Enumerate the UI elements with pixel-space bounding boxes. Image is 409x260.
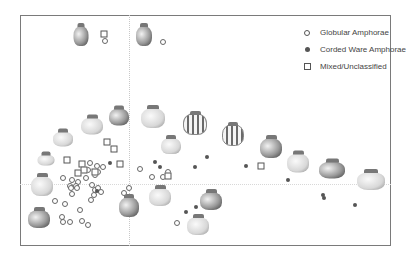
vessel-illustration (53, 132, 73, 147)
data-point-open-circle (100, 164, 106, 170)
data-point-open-circle (77, 207, 83, 213)
data-point-filled-circle (194, 205, 198, 209)
vessel-illustration (74, 26, 89, 46)
data-point-open-circle (121, 190, 127, 196)
vessel-illustration (28, 210, 50, 228)
data-point-open-square (101, 31, 108, 38)
vessel-neck (190, 111, 201, 115)
data-point-filled-circle (244, 164, 248, 168)
data-point-open-square (117, 161, 124, 168)
data-point-open-square (258, 163, 265, 170)
vessel-neck (140, 23, 148, 27)
vessel-neck (228, 122, 238, 126)
data-point-open-circle (52, 198, 58, 204)
data-point-filled-circle (205, 155, 209, 159)
data-point-open-square (64, 157, 71, 164)
vessel-neck (114, 106, 124, 110)
data-point-open-circle (62, 201, 68, 207)
vessel-illustration (31, 176, 53, 196)
vessel-neck (293, 151, 304, 155)
data-point-open-circle (137, 166, 143, 172)
vessel-neck (42, 152, 51, 156)
open-circle-icon (300, 30, 314, 36)
legend-label: Globular Amphorae (320, 28, 389, 37)
data-point-filled-circle (286, 178, 290, 182)
data-point-open-circle (102, 38, 108, 44)
vessel-illustration (187, 217, 209, 235)
data-point-filled-circle (322, 196, 326, 200)
data-point-open-circle (69, 191, 75, 197)
vessel-illustration (319, 162, 345, 179)
vessel-neck (77, 23, 85, 27)
data-point-open-circle (60, 175, 66, 181)
vessel-illustration (109, 109, 129, 126)
vessel-illustration (161, 138, 181, 154)
data-point-open-square (75, 170, 82, 177)
data-point-filled-circle (158, 165, 162, 169)
data-point-open-circle (174, 220, 180, 226)
data-point-open-circle (85, 222, 91, 228)
data-point-open-square (81, 167, 88, 174)
data-point-open-circle (83, 175, 89, 181)
legend-label: Mixed/Unclassified (320, 62, 387, 71)
data-point-open-circle (126, 185, 132, 191)
data-point-open-circle (88, 197, 94, 203)
data-point-filled-circle (353, 203, 357, 207)
data-point-filled-circle (193, 165, 197, 169)
vessel-illustration (141, 108, 165, 128)
vessel-illustration (149, 188, 171, 206)
data-point-filled-circle (153, 160, 157, 164)
data-point-open-circle (60, 219, 66, 225)
filled-circle-icon (300, 47, 314, 52)
data-point-open-square (111, 146, 118, 153)
data-point-open-circle (87, 160, 93, 166)
data-point-filled-circle (95, 189, 99, 193)
vessel-neck (58, 129, 68, 133)
vessel-neck (364, 169, 378, 173)
open-square-icon (300, 63, 314, 70)
vessel-neck (87, 115, 98, 119)
data-point-open-circle (67, 219, 73, 225)
data-point-filled-circle (108, 161, 112, 165)
vessel-illustration (287, 154, 309, 173)
vessel-illustration (136, 26, 152, 46)
vessel-illustration (38, 155, 55, 166)
vessel-illustration (81, 118, 103, 135)
vessel-neck (155, 185, 166, 189)
legend-item-mixed: Mixed/Unclassified (300, 58, 406, 75)
data-point-filled-circle (184, 210, 188, 214)
vessel-illustration (222, 124, 244, 146)
vessel-neck (206, 189, 217, 193)
vessel-illustration (357, 172, 385, 190)
vessel-neck (166, 135, 176, 139)
legend-item-globular: Globular Amphorae (300, 24, 406, 41)
vessel-illustration (260, 138, 282, 158)
data-point-open-circle (79, 218, 85, 224)
data-point-open-square (92, 169, 99, 176)
vessel-neck (266, 135, 277, 139)
vessel-illustration (119, 197, 139, 217)
vessel-illustration (183, 113, 207, 135)
legend-label: Corded Ware Amphorae (320, 45, 406, 54)
data-point-open-square (165, 173, 172, 180)
vessel-neck (34, 207, 45, 211)
data-point-open-square (104, 139, 111, 146)
vessel-neck (326, 159, 339, 163)
vessel-neck (193, 214, 204, 218)
data-point-open-circle (160, 39, 166, 45)
data-point-open-circle (149, 174, 155, 180)
legend-item-corded-ware: Corded Ware Amphorae (300, 41, 406, 58)
vessel-neck (147, 105, 159, 109)
data-point-open-circle (74, 185, 80, 191)
vessel-illustration (200, 192, 222, 210)
vessel-neck (37, 173, 48, 177)
legend: Globular Amphorae Corded Ware Amphorae M… (300, 24, 406, 75)
